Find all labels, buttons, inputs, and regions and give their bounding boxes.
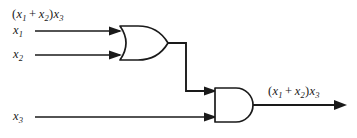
- input-x2-sub: 2: [19, 53, 23, 63]
- output-sub-2: 2: [301, 90, 305, 100]
- output-sub-3: 3: [315, 90, 319, 100]
- output-var-x2: x: [295, 84, 301, 98]
- arrowhead-output: [334, 100, 347, 110]
- arrowhead-x2-input: [109, 51, 122, 60]
- output-sub-1: 1: [278, 90, 282, 100]
- caption-var-x2: x: [39, 7, 45, 21]
- input-x3-var: x: [13, 109, 19, 123]
- input-label-x1: x1: [13, 24, 23, 37]
- input-x3-sub: 3: [19, 115, 23, 125]
- logic-circuit-figure: (x1+x2)x3 x1 x2 x3 (x1+x2)x3: [0, 0, 357, 138]
- output-operator: +: [283, 84, 295, 98]
- wire-or-output-to-and-gate: [168, 43, 215, 91]
- expression-caption: (x1+x2)x3: [12, 8, 64, 21]
- arrowhead-x1-input: [109, 27, 122, 36]
- or-gate: [120, 26, 168, 60]
- input-x1-var: x: [13, 23, 19, 37]
- caption-sub-3: 3: [59, 13, 63, 23]
- caption-operator: +: [27, 7, 39, 21]
- caption-sub-2: 2: [45, 13, 49, 23]
- input-x1-sub: 1: [19, 29, 23, 39]
- and-gate: [215, 88, 253, 122]
- output-expression-label: (x1+x2)x3: [268, 85, 320, 98]
- caption-sub-1: 1: [22, 13, 26, 23]
- input-label-x3: x3: [13, 110, 23, 123]
- input-x2-var: x: [13, 47, 19, 61]
- input-label-x2: x2: [13, 48, 23, 61]
